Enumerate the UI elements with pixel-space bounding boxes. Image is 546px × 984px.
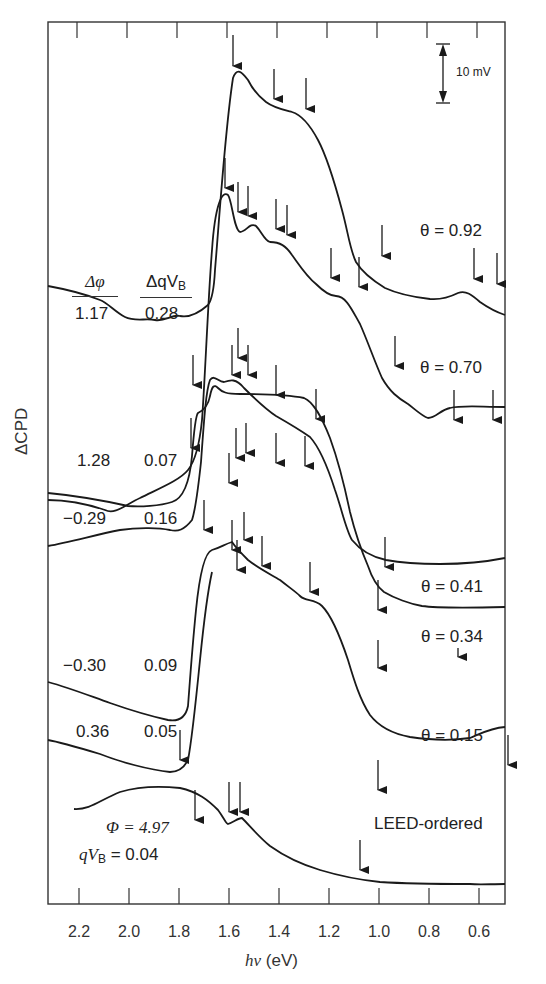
x-tick-1.2: 1.2	[318, 923, 340, 941]
header-rule-2	[140, 297, 192, 298]
header-delta-qvb: ΔqVB	[140, 272, 192, 298]
curve-theta-0.41	[48, 378, 505, 564]
label-theta-0.15: θ = 0.15	[421, 727, 483, 744]
x-tick-0.8: 0.8	[418, 923, 440, 941]
label-qvb-value: qVB = 0.04	[79, 846, 158, 865]
label-phi-value: Φ = 4.97	[106, 819, 169, 836]
row3-delta-phi: −0.29	[63, 510, 106, 527]
scale-bar	[436, 44, 450, 103]
row3-delta-qvb: 0.16	[144, 510, 177, 527]
bottom-ticks	[79, 888, 479, 904]
x-tick-1.6: 1.6	[218, 923, 240, 941]
x-tick-1.4: 1.4	[268, 923, 290, 941]
header-delta-phi-text: Δφ	[85, 272, 104, 291]
y-axis-label: ΔCPD	[12, 408, 32, 455]
row1-delta-phi: 1.17	[75, 305, 108, 322]
header-rule-1	[72, 296, 118, 297]
x-axis-label-h: h	[245, 951, 254, 970]
x-tick-0.6: 0.6	[468, 923, 490, 941]
label-qvb-q: qV	[79, 845, 98, 864]
chart-canvas	[0, 0, 546, 984]
label-leed-ordered: LEED-ordered	[374, 815, 483, 832]
row5-delta-phi: 0.36	[76, 723, 109, 740]
label-theta-0.34: θ = 0.34	[421, 628, 483, 645]
row4-delta-qvb: 0.09	[144, 657, 177, 674]
header-delta-qvb-sub: B	[178, 279, 186, 293]
x-axis-label-unit: (eV)	[261, 951, 298, 970]
label-theta-0.70: θ = 0.70	[420, 359, 482, 376]
label-qvb-number: = 0.04	[106, 845, 158, 864]
label-theta-0.92: θ = 0.92	[420, 222, 482, 239]
x-tick-1.0: 1.0	[368, 923, 390, 941]
top-ticks	[77, 22, 477, 38]
scale-bar-label: 10 mV	[456, 66, 491, 78]
header-delta-phi: Δφ	[72, 272, 118, 297]
x-tick-1.8: 1.8	[168, 923, 190, 941]
x-axis-label: hν (eV)	[245, 951, 298, 971]
row4-delta-phi: −0.30	[63, 657, 106, 674]
x-tick-2.2: 2.2	[68, 923, 90, 941]
header-delta-qvb-text: ΔqV	[146, 272, 178, 291]
row2-delta-qvb: 0.07	[144, 452, 177, 469]
curve-theta-0.70	[48, 194, 505, 511]
row2-delta-phi: 1.28	[77, 452, 110, 469]
x-tick-2.0: 2.0	[118, 923, 140, 941]
label-theta-0.41: θ = 0.41	[421, 578, 483, 595]
x-axis-label-nu: ν	[254, 951, 262, 970]
row5-delta-qvb: 0.05	[144, 723, 177, 740]
label-qvb-sub: B	[98, 852, 106, 866]
curve-theta-0.34	[48, 386, 505, 608]
row1-delta-qvb: 0.28	[145, 305, 178, 322]
